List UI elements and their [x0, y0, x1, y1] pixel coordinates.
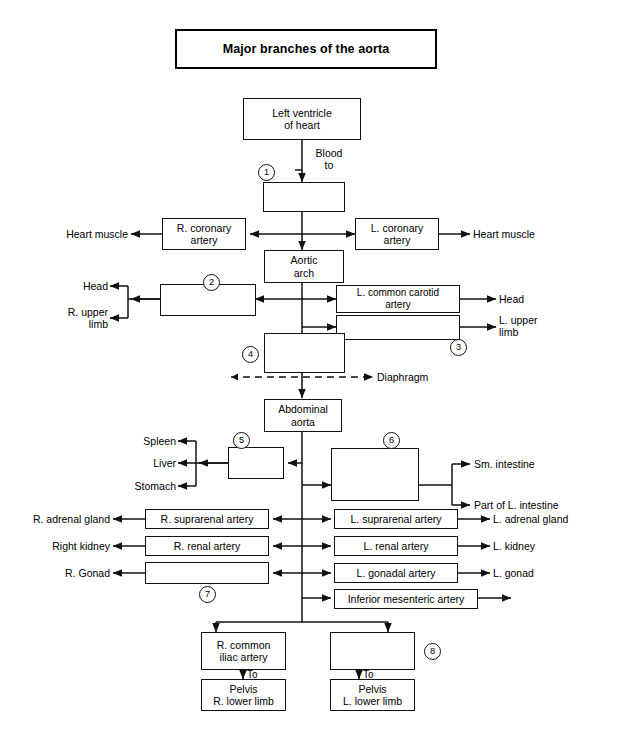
number-7: 7 [199, 586, 216, 603]
box-3-l-subclavian [336, 315, 460, 340]
box-l-suprarenal-artery: L. suprarenal artery [334, 509, 458, 529]
box-7-r-gonadal-artery [145, 562, 269, 584]
box-r-common-iliac-artery: R. commoniliac artery [201, 632, 286, 670]
label-l-adrenal-gland: L. adrenal gland [493, 513, 613, 525]
number-2: 2 [203, 274, 220, 291]
label-r-adrenal-gland: R. adrenal gland [12, 513, 110, 525]
label-l-gonad: L. gonad [493, 567, 613, 579]
box-l-common-carotid-artery: L. common carotidartery [336, 285, 460, 313]
box-abdominal-aorta: Abdominalaorta [264, 399, 342, 432]
box-l-gonadal-artery: L. gonadal artery [334, 563, 458, 583]
box-r-coronary-artery: R. coronaryartery [162, 218, 246, 250]
label-right-kidney: Right kidney [12, 540, 110, 552]
label-l-kidney: L. kidney [493, 540, 613, 552]
box-r-renal-artery: R. renal artery [145, 536, 269, 556]
number-5: 5 [233, 432, 250, 449]
label-part-l-intestine-sma: Part of L. intestine [474, 499, 614, 511]
label-r-upper-limb: R. upperlimb [38, 306, 108, 331]
label-sm-intestine: Sm. intestine [474, 458, 604, 470]
box-4-thoracic-aorta [264, 333, 345, 373]
label-head-left: Head [38, 280, 108, 292]
box-pelvis-r-lower-limb: PelvisR. lower limb [201, 679, 286, 711]
number-3: 3 [450, 339, 467, 356]
number-6: 6 [383, 432, 400, 449]
label-heart-muscle-right: Heart muscle [473, 228, 583, 240]
box-l-renal-artery: L. renal artery [334, 536, 458, 556]
number-1: 1 [258, 164, 275, 181]
box-5-coeliac-artery [228, 447, 284, 479]
number-4: 4 [242, 346, 259, 363]
diagram-title: Major branches of the aorta [175, 29, 437, 69]
diagram-canvas: Major branches of the aorta Left ventric… [0, 0, 638, 753]
label-heart-muscle-left: Heart muscle [28, 228, 128, 240]
label-spleen: Spleen [98, 435, 176, 447]
box-left-ventricle: Left ventricleof heart [243, 98, 361, 140]
label-l-upper-limb: L. upperlimb [499, 314, 579, 339]
box-pelvis-l-lower-limb: PelvisL. lower limb [330, 679, 415, 711]
label-diaphragm: Diaphragm [377, 371, 467, 383]
box-8-l-common-iliac-artery [330, 632, 415, 670]
box-1-aorta [263, 182, 345, 212]
label-head-right: Head [499, 293, 579, 305]
label-r-gonad: R. Gonad [12, 567, 110, 579]
label-liver: Liver [98, 457, 176, 469]
box-6-superior-mesenteric-artery [331, 448, 419, 501]
label-blood-to: Bloodto [306, 147, 352, 172]
box-r-suprarenal-artery: R. suprarenal artery [145, 509, 269, 529]
label-stomach: Stomach [98, 480, 176, 492]
number-8: 8 [424, 643, 441, 660]
box-l-coronary-artery: L. coronaryartery [355, 218, 439, 250]
box-aortic-arch: Aorticarch [264, 250, 344, 283]
box-inferior-mesenteric-artery: Inferior mesenteric artery [334, 589, 478, 609]
